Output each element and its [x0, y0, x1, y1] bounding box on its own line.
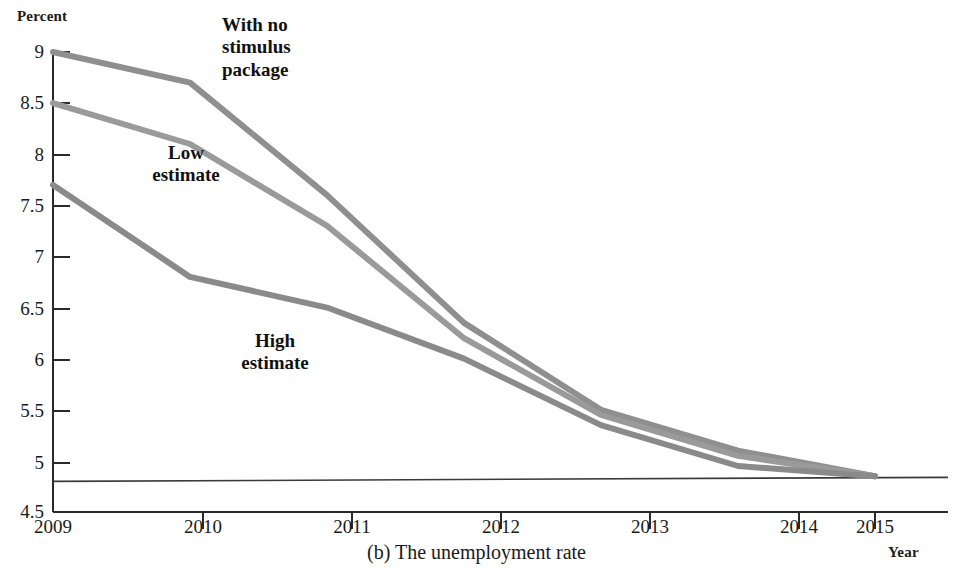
unemployment-rate-chart-figure: Percent Year 9 8.5 8 7.5 7 6.5 6 5.5 5 4… — [0, 0, 953, 576]
y-tick-label-5-5: 5.5 — [0, 400, 44, 422]
x-tick-label-2013: 2013 — [607, 516, 693, 538]
annotation-high-estimate: High estimate — [210, 330, 340, 375]
y-tick-label-5: 5 — [0, 452, 44, 474]
x-tick-label-2014: 2014 — [756, 516, 842, 538]
y-tick-label-9: 9 — [0, 41, 44, 63]
figure-caption: (b) The unemployment rate — [0, 541, 953, 564]
x-tick-label-2010: 2010 — [160, 516, 246, 538]
baseline-reference-line — [53, 477, 948, 481]
y-tick-label-6-5: 6.5 — [0, 298, 44, 320]
y-tick-label-7: 7 — [0, 246, 44, 268]
x-tick-label-2012: 2012 — [458, 516, 544, 538]
line-series-high-estimate — [53, 185, 875, 476]
y-tick-label-6: 6 — [0, 349, 44, 371]
x-tick-label-2015: 2015 — [832, 516, 918, 538]
y-tick-label-8: 8 — [0, 144, 44, 166]
annotation-no-stimulus-package: With no stimulus package — [222, 14, 291, 81]
annotation-low-estimate: Low estimate — [126, 142, 246, 187]
chart-plot-area — [0, 0, 953, 576]
y-tick-label-7-5: 7.5 — [0, 195, 44, 217]
x-tick-label-2011: 2011 — [309, 516, 395, 538]
y-axis-ticks — [53, 52, 70, 463]
y-axis-title: Percent — [17, 8, 67, 25]
x-tick-label-2009: 2009 — [10, 516, 96, 538]
y-tick-label-8-5: 8.5 — [0, 92, 44, 114]
